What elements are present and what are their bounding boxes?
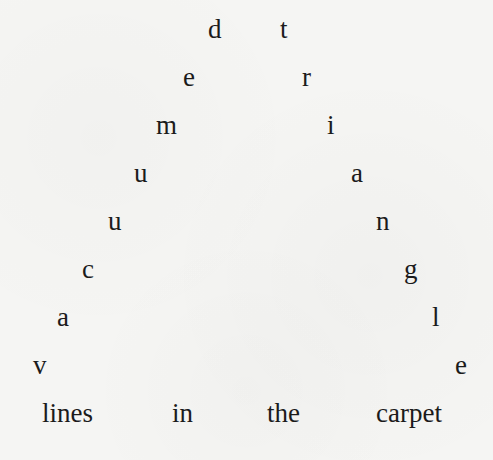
poem-page: d e m u u c a v t r i a n g l e lines in… <box>0 0 493 460</box>
left-arm-letter-3: m <box>156 112 177 139</box>
right-arm-letter-6: g <box>404 256 418 283</box>
base-word-the: the <box>267 400 300 427</box>
left-arm-letter-8: v <box>33 352 47 379</box>
right-arm-letter-3: i <box>327 112 335 139</box>
base-word-in: in <box>172 400 193 427</box>
left-arm-letter-2: e <box>183 64 195 91</box>
right-arm-letter-2: r <box>302 64 311 91</box>
right-arm-letter-8: e <box>455 352 467 379</box>
right-arm-letter-4: a <box>351 160 363 187</box>
left-arm-letter-5: u <box>108 208 122 235</box>
right-arm-letter-5: n <box>376 208 390 235</box>
left-arm-letter-7: a <box>57 304 69 331</box>
left-arm-letter-6: c <box>82 256 94 283</box>
base-word-lines: lines <box>42 400 93 427</box>
left-arm-letter-4: u <box>134 160 148 187</box>
base-word-carpet: carpet <box>376 400 442 427</box>
right-arm-letter-1: t <box>280 16 288 43</box>
right-arm-letter-7: l <box>432 304 440 331</box>
left-arm-letter-1: d <box>208 16 222 43</box>
